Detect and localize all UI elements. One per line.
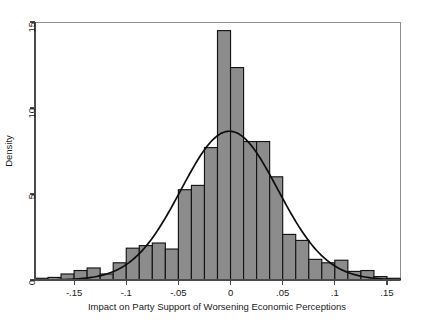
histogram-figure: -.15-.1-.050.05.1.15 051015 Impact on Pa… (0, 0, 421, 322)
y-tick-label: 15 (26, 22, 37, 33)
x-tick-label: .15 (380, 287, 393, 298)
histogram-bar (191, 185, 204, 280)
x-tick-label: -.05 (170, 287, 186, 298)
y-tick-label: 0 (26, 280, 37, 285)
y-axis-title: Density (3, 135, 14, 167)
histogram-bar (283, 234, 296, 280)
histogram-bar (178, 190, 191, 280)
x-tick-label: 0 (228, 287, 233, 298)
x-tick-label: -.15 (66, 287, 82, 298)
x-tick-label: .1 (331, 287, 339, 298)
y-tick-label: 5 (26, 194, 37, 199)
histogram-bar (152, 243, 165, 280)
x-axis-title: Impact on Party Support of Worsening Eco… (88, 301, 346, 312)
histogram-bar (309, 259, 322, 280)
x-tick-label: -.1 (121, 287, 132, 298)
histogram-bar (296, 240, 309, 280)
histogram-bar (165, 249, 178, 280)
x-tick-label: .05 (276, 287, 289, 298)
density-histogram-chart: -.15-.1-.050.05.1.15 051015 Impact on Pa… (0, 0, 421, 322)
histogram-bar (218, 31, 231, 280)
histogram-bar (270, 177, 283, 280)
y-tick-label: 10 (26, 108, 37, 119)
histogram-bar (244, 142, 257, 280)
histogram-bar (231, 68, 244, 280)
histogram-bar (204, 148, 217, 280)
